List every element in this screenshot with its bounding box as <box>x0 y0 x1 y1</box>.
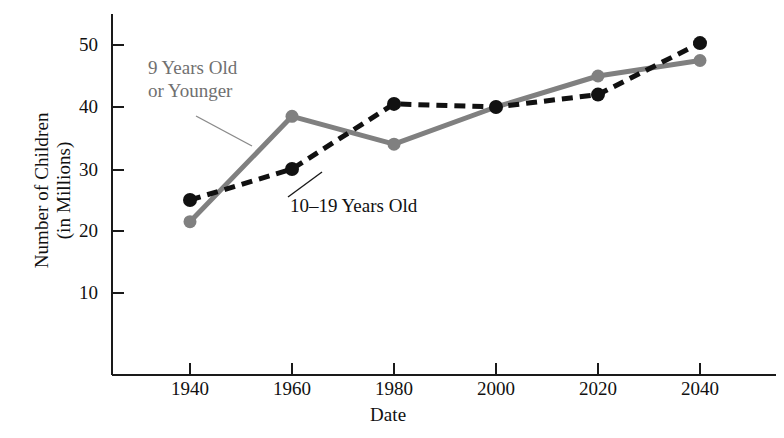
data-point-teen-2000 <box>489 100 503 114</box>
y-tick-label-30: 30 <box>54 159 98 181</box>
chart-container: Number of Children (in Millions) Date 50… <box>0 0 784 438</box>
y-tick-label-50: 50 <box>54 34 98 56</box>
data-point-young-1940 <box>184 215 197 228</box>
data-point-teen-1980 <box>387 97 401 111</box>
x-tick-label-1980: 1980 <box>362 378 426 400</box>
data-point-young-1960 <box>286 110 299 123</box>
x-tick-label-2000: 2000 <box>464 378 528 400</box>
series-label-young-line1: 9 Years Old <box>148 56 237 79</box>
x-tick-label-2040: 2040 <box>668 378 732 400</box>
x-axis-ticks <box>190 363 700 375</box>
data-point-young-2020 <box>592 70 605 83</box>
chart-plot-area <box>0 0 784 438</box>
x-tick-label-1940: 1940 <box>158 378 222 400</box>
x-tick-label-1960: 1960 <box>260 378 324 400</box>
y-tick-label-10: 10 <box>54 282 98 304</box>
leader-line-young <box>196 116 252 146</box>
y-tick-label-40: 40 <box>54 96 98 118</box>
x-axis-title: Date <box>370 404 406 426</box>
data-point-teen-2040 <box>693 36 707 50</box>
series-label-young-line2: or Younger <box>148 79 237 102</box>
data-point-young-2040 <box>694 54 707 67</box>
series-markers-teen <box>183 36 707 207</box>
data-point-teen-1940 <box>183 193 197 207</box>
series-line-young <box>190 61 700 222</box>
data-point-teen-2020 <box>591 88 605 102</box>
series-label-10-19-years-old: 10–19 Years Old <box>290 194 417 217</box>
series-line-teen <box>190 43 700 200</box>
y-tick-label-20: 20 <box>54 220 98 242</box>
y-axis-title-line1: Number of Children <box>31 112 52 268</box>
series-label-9-years-or-younger: 9 Years Old or Younger <box>148 56 237 102</box>
data-point-teen-1960 <box>285 162 299 176</box>
x-tick-label-2020: 2020 <box>566 378 630 400</box>
data-point-young-1980 <box>388 138 401 151</box>
series-label-teen-line1: 10–19 Years Old <box>290 194 417 217</box>
series-markers-young <box>184 54 707 228</box>
y-axis-ticks <box>112 45 124 293</box>
